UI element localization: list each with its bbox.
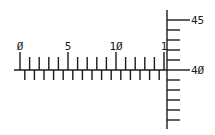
tick-label-15: 1 (161, 40, 168, 53)
tick-label-40: 4Ø (191, 64, 205, 77)
vertical-ruler (167, 10, 190, 129)
horizontal-ruler-labels: Ø51Ø1 (17, 40, 168, 53)
vertical-ruler-labels: 454Ø (191, 14, 205, 77)
tick-label-5: 5 (65, 40, 72, 53)
tick-label-10: 1Ø (109, 40, 123, 53)
horizontal-ruler (14, 52, 167, 80)
tick-label-0: Ø (17, 40, 24, 53)
ruler-diagram: Ø51Ø1 454Ø (0, 0, 215, 135)
tick-label-45: 45 (191, 14, 204, 27)
